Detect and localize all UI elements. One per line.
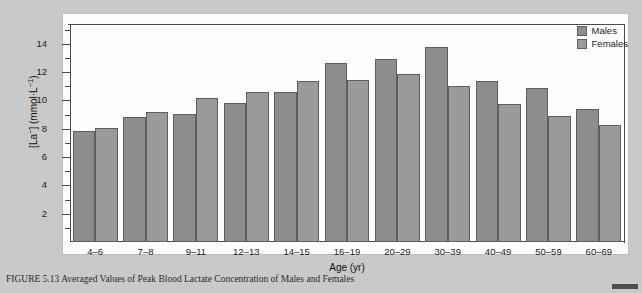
x-tick-label: 40–49 bbox=[485, 246, 511, 257]
figure-screenshot: 2468101214 [La−] (mmol·L−1) 4–67–89–1112… bbox=[0, 0, 642, 293]
y-tick-major bbox=[62, 44, 70, 45]
x-tick-label: 20–29 bbox=[384, 246, 410, 257]
x-tick-label: 7–8 bbox=[138, 246, 154, 257]
legend-item-females: Females bbox=[577, 39, 628, 49]
bar-females-60-69 bbox=[599, 125, 621, 242]
y-axis-title: [La−] (mmol·L−1) bbox=[26, 17, 39, 207]
legend-label: Females bbox=[592, 39, 628, 49]
bar-females-4-6 bbox=[95, 128, 117, 242]
legend-swatch-icon bbox=[577, 26, 587, 36]
x-tick-label: 4–6 bbox=[87, 246, 103, 257]
bar-males-30-39 bbox=[425, 47, 447, 242]
legend: MalesFemales bbox=[577, 26, 628, 49]
figure-panel: 2468101214 [La−] (mmol·L−1) 4–67–89–1112… bbox=[0, 0, 642, 268]
y-tick-label: 6 bbox=[42, 152, 47, 162]
y-tick-major bbox=[62, 185, 70, 186]
bar-females-30-39 bbox=[448, 86, 470, 242]
y-tick-major bbox=[62, 214, 70, 215]
x-axis-title-text: Age (yr) bbox=[329, 262, 365, 273]
legend-label: Males bbox=[592, 26, 617, 36]
bar-males-4-6 bbox=[73, 131, 95, 242]
bar-males-12-13 bbox=[224, 103, 246, 242]
x-tick-label: 12–13 bbox=[233, 246, 259, 257]
bar-males-20-29 bbox=[375, 59, 397, 242]
y-tick-major bbox=[62, 72, 70, 73]
bar-females-40-49 bbox=[498, 104, 520, 242]
bar-males-7-8 bbox=[123, 117, 145, 242]
y-tick-label: 4 bbox=[42, 181, 47, 191]
legend-item-males: Males bbox=[577, 26, 628, 36]
bar-females-16-19 bbox=[347, 80, 369, 242]
x-tick-label: 50–59 bbox=[535, 246, 561, 257]
bar-males-60-69 bbox=[576, 109, 598, 242]
y-tick-major bbox=[62, 129, 70, 130]
bar-males-9-11 bbox=[173, 114, 195, 242]
y-tick-label: 8 bbox=[42, 124, 47, 134]
y-axis-title-text: [La−] (mmol·L−1) bbox=[29, 75, 40, 147]
bar-females-20-29 bbox=[397, 74, 419, 242]
bar-males-40-49 bbox=[476, 81, 498, 242]
x-tick-label: 30–39 bbox=[435, 246, 461, 257]
y-tick-major bbox=[62, 100, 70, 101]
x-tick-label: 60–69 bbox=[586, 246, 612, 257]
y-tick-major bbox=[62, 157, 70, 158]
y-tick-label: 2 bbox=[42, 209, 47, 219]
bar-females-50-59 bbox=[548, 116, 570, 242]
x-axis-tick-labels: 4–67–89–1112–1314–1516–1920–2930–3940–49… bbox=[0, 246, 642, 264]
x-tick-label: 9–11 bbox=[186, 246, 206, 257]
bar-males-50-59 bbox=[526, 88, 548, 242]
bar-females-9-11 bbox=[196, 98, 218, 242]
page-edge-mark bbox=[612, 284, 638, 289]
bar-females-14-15 bbox=[297, 81, 319, 242]
figure-caption: FIGURE 5.13 Averaged Values of Peak Bloo… bbox=[6, 274, 566, 284]
legend-swatch-icon bbox=[577, 39, 587, 49]
x-tick-label: 16–19 bbox=[334, 246, 360, 257]
bar-females-12-13 bbox=[246, 92, 268, 242]
bar-females-7-8 bbox=[146, 112, 168, 242]
x-tick-label: 14–15 bbox=[283, 246, 309, 257]
bar-males-16-19 bbox=[325, 63, 347, 242]
bars-plot-area bbox=[70, 24, 624, 242]
bar-males-14-15 bbox=[274, 92, 296, 242]
